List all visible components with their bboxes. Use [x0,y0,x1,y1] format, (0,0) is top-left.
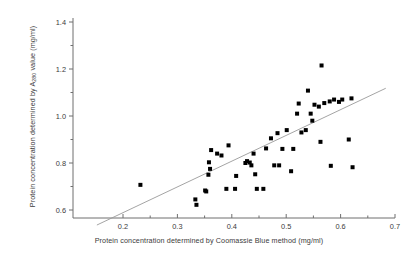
data-points [138,63,354,206]
x-tick-label: 0.3 [172,222,182,231]
data-point-marker [193,197,197,201]
scatter-plot-figure: 0.60.81.01.21.40.20.30.40.50.60.7 Protei… [0,0,418,259]
data-point-marker [272,163,276,167]
data-point-marker [234,174,238,178]
data-point-marker [295,112,299,116]
x-tick-label: 0.2 [118,222,128,231]
data-point-marker [304,128,308,132]
data-point-marker [224,187,228,191]
data-point-marker [280,147,284,151]
tick-labels: 0.60.81.01.21.40.20.30.40.50.60.7 [56,18,400,231]
data-point-marker [253,172,257,176]
y-axis-title-prefix: Protein concentration determined by A [28,82,37,208]
data-point-marker [340,98,344,102]
data-point-marker [328,99,332,103]
data-point-marker [209,148,213,152]
data-point-marker [347,138,351,142]
data-point-marker [297,102,301,106]
data-point-marker [322,101,326,105]
data-point-marker [317,105,321,109]
data-point-marker [269,136,273,140]
data-point-marker [312,103,316,107]
data-point-marker [291,147,295,151]
x-tick-label: 0.7 [390,222,400,231]
data-point-marker [351,165,355,169]
data-point-marker [138,183,142,187]
data-point-marker [215,152,219,156]
data-point-marker [227,143,231,147]
data-point-marker [309,112,313,116]
data-point-marker [249,163,253,167]
trendline [97,88,386,225]
data-point-marker [233,187,237,191]
data-point-marker [194,203,198,207]
data-point-marker [219,153,223,157]
data-point-marker [255,187,259,191]
regression-line [97,88,386,225]
data-point-marker [264,146,268,150]
data-point-marker [349,96,353,100]
y-tick-label: 1.4 [56,18,66,27]
data-point-marker [277,163,281,167]
data-point-marker [206,173,210,177]
y-tick-label: 1.2 [56,65,66,74]
data-point-marker [207,160,211,164]
x-tick-label: 0.5 [281,222,291,231]
data-point-marker [299,130,303,134]
y-axis-title: Protein concentration determined by A280… [28,22,37,212]
x-axis-title: Protein concentration determined by Coom… [0,236,418,245]
data-point-marker [285,128,289,132]
data-point-marker [310,119,314,123]
y-tick-label: 1.0 [56,112,66,121]
data-point-marker [252,152,256,156]
data-point-marker [318,140,322,144]
y-axis-title-subscript: 280 [31,73,37,82]
data-point-marker [275,131,279,135]
data-point-marker [289,169,293,173]
data-point-marker [208,167,212,171]
data-point-marker [261,187,265,191]
axes [69,18,395,218]
x-tick-label: 0.6 [335,222,345,231]
y-tick-label: 0.8 [56,159,66,168]
y-tick-label: 0.6 [56,206,66,215]
x-tick-label: 0.4 [227,222,237,231]
data-point-marker [332,98,336,102]
data-point-marker [320,63,324,67]
data-point-marker [306,89,310,93]
plot-canvas: 0.60.81.01.21.40.20.30.40.50.60.7 [0,0,418,259]
y-axis-title-suffix: value (mg/ml) [28,26,37,73]
data-point-marker [329,164,333,168]
data-point-marker [204,189,208,193]
